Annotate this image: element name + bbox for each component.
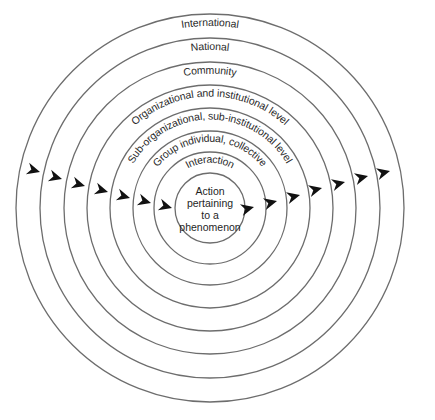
ring-label-5: Community bbox=[182, 64, 238, 79]
arrow-right-icon bbox=[26, 163, 42, 178]
arrow-right-icon bbox=[116, 189, 132, 204]
concentric-levels-diagram: InteractionGroup individual, collectiveS… bbox=[0, 0, 435, 420]
arrow-right-icon bbox=[354, 170, 370, 185]
arrow-right-icon bbox=[71, 177, 87, 192]
core-line-1: Action bbox=[195, 185, 224, 197]
ring-labels: InteractionGroup individual, collectiveS… bbox=[125, 16, 296, 171]
arrow-right-icon bbox=[94, 183, 110, 198]
ring-label-7: International bbox=[180, 16, 240, 30]
core-line-2: pertaining bbox=[187, 197, 233, 209]
arrow-right-icon bbox=[48, 170, 64, 185]
core-line-4: phenomenon bbox=[179, 221, 240, 233]
arrow-right-icon bbox=[308, 182, 324, 197]
ring-label-6: National bbox=[190, 40, 230, 53]
arrow-right-icon bbox=[137, 194, 153, 209]
arrow-right-icon bbox=[158, 199, 174, 214]
arrow-right-icon bbox=[331, 176, 347, 191]
arrow-right-icon bbox=[376, 165, 392, 180]
arrow-right-icon bbox=[286, 189, 302, 204]
core-line-3: to a bbox=[201, 209, 219, 221]
